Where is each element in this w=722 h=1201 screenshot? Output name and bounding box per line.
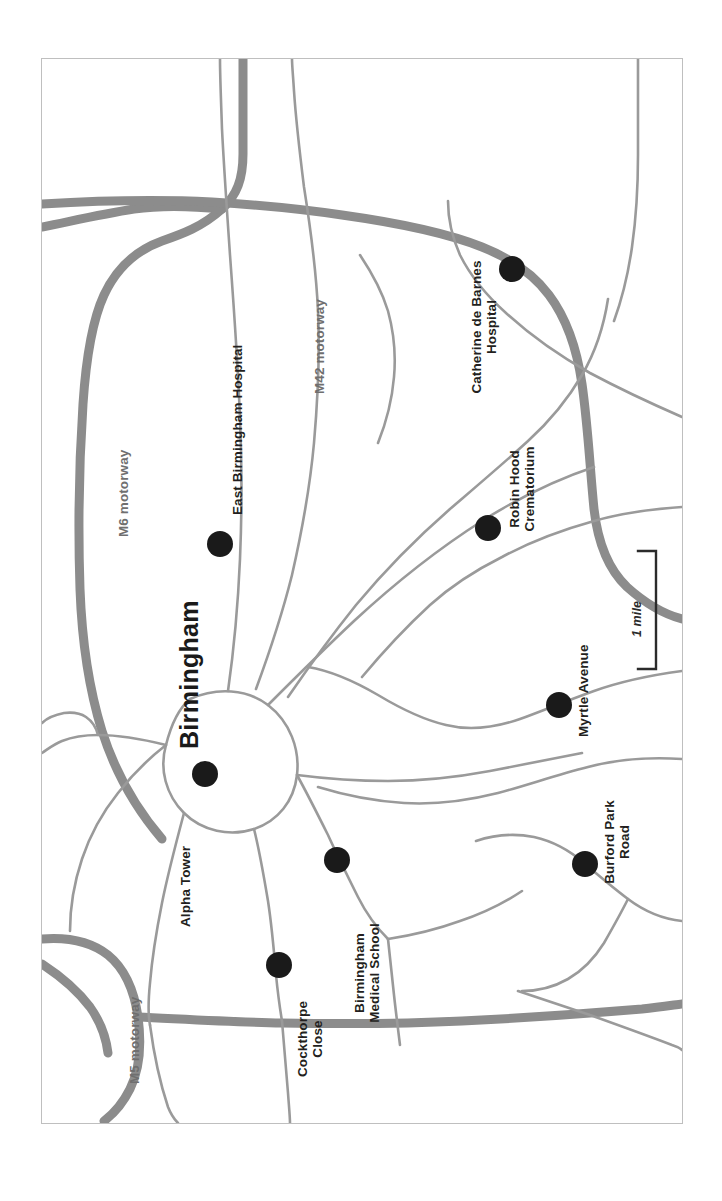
marker-alpha-tower[interactable] [192,761,218,787]
site-label-east-birmingham-hospital: East Birmingham Hospital [230,345,245,515]
site-label-robin-hood-crematorium: Robin HoodCrematorium [507,424,537,554]
marker-robin-hood-crematorium[interactable] [475,515,501,541]
site-label-line-1: Robin Hood [507,450,522,527]
site-label-line-2: Road [617,825,632,859]
site-label-line-2: Hospital [484,300,499,354]
marker-east-birmingham-hospital[interactable] [207,531,233,557]
site-label-line-2: Medical School [367,923,382,1023]
marker-burford-park-road[interactable] [572,851,598,877]
marker-catherine-de-barnes-hospital[interactable] [499,256,525,282]
city-label-birmingham: Birmingham [175,600,203,749]
site-label-line-2: Close [310,1020,325,1057]
site-label-alpha-tower: Alpha Tower [178,846,193,927]
motorway-label-m6: M6 motorway [116,450,131,537]
site-label-line-1: Cockthorpe [295,1001,310,1077]
site-label-line-2: Crematorium [522,446,537,531]
site-label-myrtle-avenue: Myrtle Avenue [576,644,591,737]
motorway-label-m5: M5 motorway [127,997,142,1084]
marker-myrtle-avenue[interactable] [546,692,572,718]
site-label-burford-park-road: Burford ParkRoad [602,787,632,897]
scale-bar-label: 1 mile [630,601,644,637]
map-figure: Birmingham M6 motorway M42 motorway M5 m… [0,0,722,1201]
map-frame: Birmingham M6 motorway M42 motorway M5 m… [41,58,683,1124]
marker-birmingham-medical-school[interactable] [324,847,350,873]
motorway-label-m42: M42 motorway [312,299,327,394]
site-label-line-1: Birmingham [352,933,367,1013]
site-label-catherine-de-barnes-hospital: Catherine de BarnesHospital [469,242,499,412]
marker-cockthorpe-close[interactable] [266,952,292,978]
site-label-cockthorpe-close: CockthorpeClose [295,974,325,1104]
site-label-line-1: Catherine de Barnes [469,260,484,393]
site-label-birmingham-medical-school: BirminghamMedical School [352,893,382,1053]
site-label-line-1: Burford Park [602,800,617,884]
